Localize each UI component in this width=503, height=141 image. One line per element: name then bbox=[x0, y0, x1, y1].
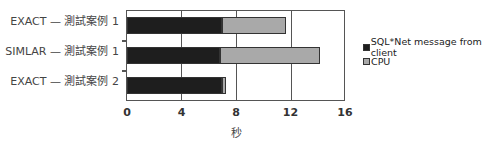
bar-segment bbox=[127, 77, 222, 94]
category-label-1: EXACT — 測試案例 1 bbox=[10, 12, 119, 28]
bar-segment bbox=[127, 17, 222, 34]
legend-label: CPU bbox=[371, 56, 390, 67]
category-label-3: EXACT — 測試案例 2 bbox=[10, 72, 119, 88]
bar-segment bbox=[222, 77, 227, 94]
y-tick bbox=[122, 70, 127, 72]
bar-segment bbox=[127, 47, 220, 64]
stacked-bar-chart: EXACT — 測試案例 1 SIMLAR — 測試案例 1 EXACT — 測… bbox=[0, 0, 503, 141]
plot-area bbox=[126, 10, 345, 101]
x-tick-label: 8 bbox=[232, 106, 240, 119]
legend-swatch-dark bbox=[363, 44, 370, 51]
category-label-2: SIMLAR — 測試案例 1 bbox=[5, 42, 119, 58]
y-tick bbox=[122, 40, 127, 42]
legend: SQL*Net message from client CPU bbox=[363, 41, 503, 69]
legend-swatch-light bbox=[363, 58, 370, 65]
x-tick-label: 16 bbox=[337, 106, 352, 119]
bar-segment bbox=[222, 17, 287, 34]
x-axis-title: 秒 bbox=[231, 124, 242, 140]
legend-item-sqlnet: SQL*Net message from client bbox=[363, 41, 503, 53]
legend-label: SQL*Net message from client bbox=[371, 36, 503, 58]
bar-segment bbox=[220, 47, 320, 64]
x-tick-label: 12 bbox=[283, 106, 298, 119]
x-tick-label: 4 bbox=[178, 106, 186, 119]
x-tick-label: 0 bbox=[123, 106, 131, 119]
